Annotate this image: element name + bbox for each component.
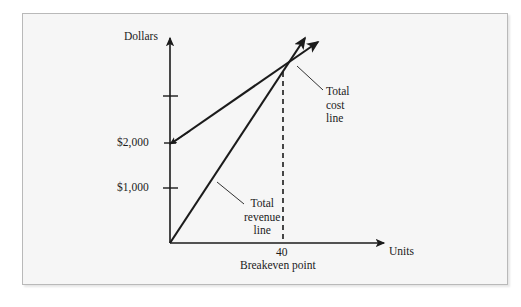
total-revenue-line-label-line-3: line xyxy=(244,224,280,238)
x-tick-label-40: 40 xyxy=(276,246,288,260)
total-cost-line-label-line-3: line xyxy=(326,112,349,126)
breakeven-point-label: Breakeven point xyxy=(240,259,316,273)
total-cost-line-label: Total cost line xyxy=(326,85,349,126)
y-tick-label-1000: $1,000 xyxy=(117,181,149,195)
total-cost-line-label-line-1: Total xyxy=(326,85,349,99)
total-cost-line-label-line-2: cost xyxy=(326,99,349,113)
total-revenue-line-label-line-1: Total xyxy=(244,197,280,211)
figure-frame xyxy=(22,13,508,285)
y-tick-label-2000: $2,000 xyxy=(117,136,149,150)
x-axis-label: Units xyxy=(389,245,414,259)
total-revenue-line-label-line-2: revenue xyxy=(244,211,280,225)
breakeven-chart-screenshot: Dollars Units $2,000 $1,000 40 Breakeven… xyxy=(0,0,521,307)
y-axis-label: Dollars xyxy=(124,30,158,44)
total-revenue-line-label: Total revenue line xyxy=(244,197,280,238)
